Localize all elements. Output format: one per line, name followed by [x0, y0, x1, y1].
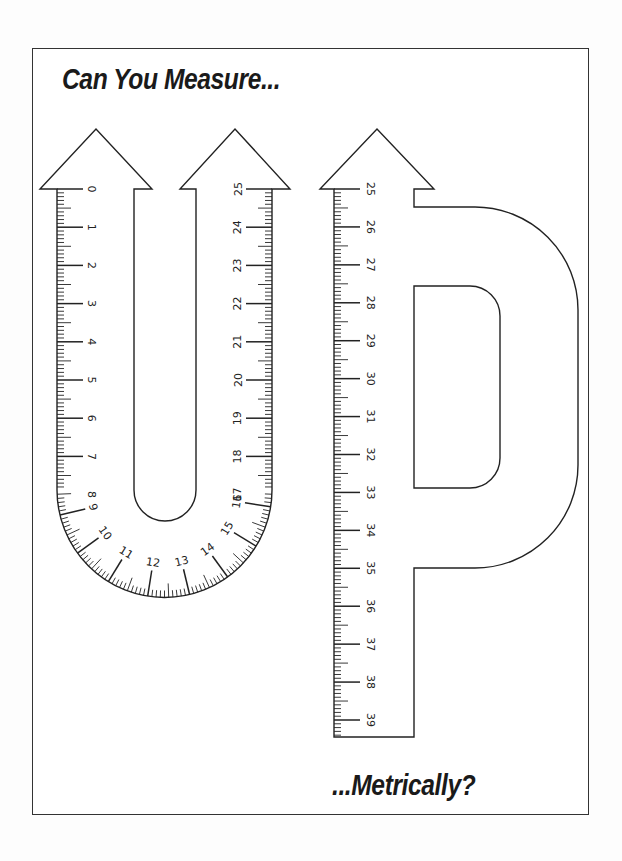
ruler-label: 18 [232, 449, 245, 463]
ruler-label: 25 [364, 182, 377, 196]
ruler-label: 12 [145, 555, 161, 570]
ruler-label: 29 [364, 334, 377, 348]
ruler-tick [57, 494, 71, 495]
ruler-label: 3 [85, 300, 98, 307]
ruler-label: 5 [85, 377, 98, 384]
ruler-tick [172, 590, 173, 597]
ruler-label: 2 [85, 262, 98, 269]
ruler-label: 28 [364, 296, 377, 310]
ruler-label: 21 [232, 335, 245, 349]
ruler-label: 17 [232, 488, 245, 502]
ruler-label: 0 [85, 186, 98, 193]
ruler-label: 23 [232, 258, 245, 272]
ruler-label: 34 [364, 523, 377, 537]
ruler-label: 20 [232, 373, 245, 387]
measuring-letters-illustration: 012345678 910111213141516 25242322212019… [0, 0, 622, 861]
ruler-label: 7 [85, 453, 98, 460]
ruler-tick [156, 590, 157, 597]
ruler-label: 31 [364, 410, 377, 424]
ruler-label: 24 [232, 220, 245, 234]
ruler-label: 6 [85, 415, 98, 422]
ruler-label: 4 [85, 338, 98, 345]
ruler-label: 36 [364, 599, 377, 613]
ruler-label: 32 [364, 448, 377, 462]
ruler-tick [168, 583, 169, 597]
ruler-label: 38 [364, 675, 377, 689]
ruler-label: 26 [364, 220, 377, 234]
ruler-tick [57, 498, 64, 499]
ruler-label: 19 [232, 411, 245, 425]
ruler-label: 33 [364, 485, 377, 499]
letter-p-counter [414, 286, 500, 488]
ruler-label: 35 [364, 561, 377, 575]
letter-u: 012345678 910111213141516 25242322212019… [40, 129, 290, 598]
ruler-label: 1 [85, 224, 98, 231]
ruler-label: 8 [85, 491, 98, 498]
ruler-label: 37 [364, 637, 377, 651]
ruler-tick [265, 498, 272, 499]
ruler-label: 27 [364, 258, 377, 272]
ruler-label: 22 [232, 297, 245, 311]
ruler-label: 25 [232, 182, 245, 196]
ruler-label: 39 [364, 713, 377, 727]
letter-u-outline [40, 129, 290, 597]
ruler-label: 30 [364, 372, 377, 386]
letter-p: 252627282930313233343536373839 [320, 129, 578, 737]
